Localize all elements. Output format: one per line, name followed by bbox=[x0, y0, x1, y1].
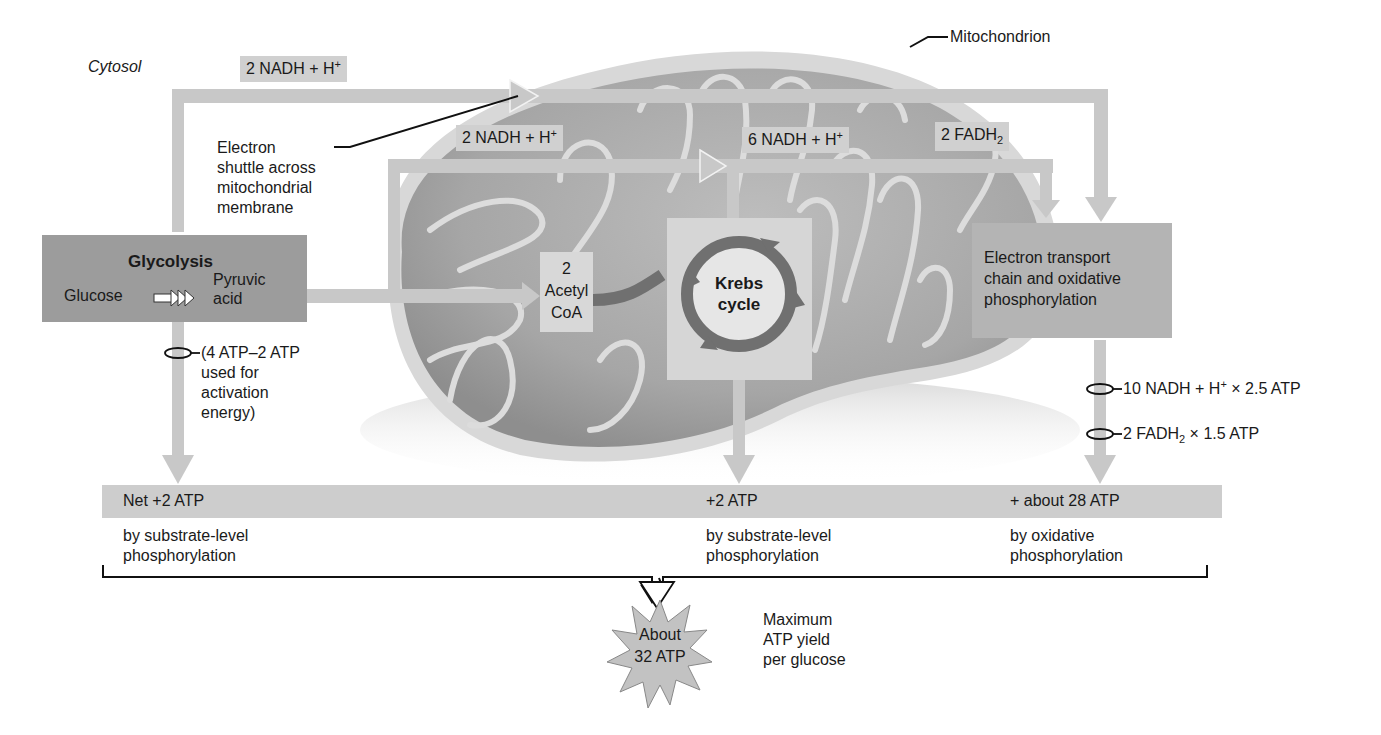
carrier-sub: 2 bbox=[997, 134, 1003, 146]
activation-energy-note: (4 ATP–2 ATP used for activation energy) bbox=[201, 343, 300, 423]
total-line: About bbox=[630, 624, 690, 646]
krebs-atp-amount: +2 ATP bbox=[706, 491, 758, 511]
max-yield-line: per glucose bbox=[763, 650, 846, 670]
acetyl-line: Acetyl bbox=[540, 280, 593, 302]
mitochondrion-label: Mitochondrion bbox=[950, 27, 1051, 47]
activation-line: activation bbox=[201, 383, 300, 403]
pyruvic-line: Pyruvic bbox=[213, 270, 265, 289]
method-line: phosphorylation bbox=[123, 546, 248, 566]
activation-line: (4 ATP–2 ATP bbox=[201, 343, 300, 363]
carrier-text: 2 NADH + H bbox=[462, 129, 550, 146]
method-line: phosphorylation bbox=[706, 546, 831, 566]
yield-text: × 1.5 ATP bbox=[1185, 425, 1259, 442]
etc-line: Electron transport bbox=[984, 247, 1121, 268]
yield-text: 10 NADH + H bbox=[1123, 380, 1220, 397]
bracket-arrow-icon bbox=[640, 582, 674, 608]
cellular-respiration-diagram: Cytosol Mitochondrion 2 NADH + H+ 2 NADH… bbox=[0, 0, 1381, 735]
acetyl-line: 2 bbox=[540, 258, 593, 280]
pyruvic-line: acid bbox=[213, 289, 265, 308]
summary-bracket bbox=[663, 565, 1207, 586]
yield-text: × 2.5 ATP bbox=[1227, 380, 1301, 397]
total-atp-label: About 32 ATP bbox=[630, 624, 690, 668]
max-yield-line: Maximum bbox=[763, 610, 846, 630]
electron-shuttle-label: Electron shuttle across mitochondrial me… bbox=[217, 138, 316, 218]
mitochondrion-leader-line bbox=[910, 37, 948, 47]
max-yield-note: Maximum ATP yield per glucose bbox=[763, 610, 846, 670]
carrier-sup: + bbox=[836, 129, 842, 141]
etc-atp-amount: + about 28 ATP bbox=[1010, 491, 1120, 511]
nadh-yield-label: 10 NADH + H+ × 2.5 ATP bbox=[1123, 379, 1301, 399]
glucose-label: Glucose bbox=[64, 286, 123, 306]
krebs-atp-method: by substrate-level phosphorylation bbox=[706, 526, 831, 566]
activation-line: used for bbox=[201, 363, 300, 383]
carrier-text: 2 FADH bbox=[941, 126, 997, 143]
glycolysis-atp-amount: Net +2 ATP bbox=[123, 491, 204, 511]
etc-line: phosphorylation bbox=[984, 289, 1121, 310]
total-line: 32 ATP bbox=[630, 646, 690, 668]
carrier-sup: + bbox=[550, 127, 556, 139]
carrier-sup: + bbox=[334, 58, 340, 70]
cytosol-nadh-tag: 2 NADH + H+ bbox=[240, 56, 347, 82]
acetyl-line: CoA bbox=[540, 302, 593, 324]
shuttle-line: shuttle across bbox=[217, 158, 316, 178]
etc-atp-method: by oxidative phosphorylation bbox=[1010, 526, 1123, 566]
krebs-fadh2-tag: 2 FADH2 bbox=[935, 122, 1009, 151]
krebs-line: Krebs bbox=[699, 273, 779, 294]
pyruvate-nadh-tag: 2 NADH + H+ bbox=[456, 125, 563, 151]
krebs-line: cycle bbox=[699, 294, 779, 315]
shuttle-line: membrane bbox=[217, 198, 316, 218]
carrier-text: 6 NADH + H bbox=[748, 131, 836, 148]
carrier-text: 2 NADH + H bbox=[246, 60, 334, 77]
glycolysis-box bbox=[42, 235, 307, 322]
glycolysis-title: Glycolysis bbox=[128, 252, 213, 272]
method-line: phosphorylation bbox=[1010, 546, 1123, 566]
method-line: by substrate-level bbox=[123, 526, 248, 546]
yield-text: 2 FADH bbox=[1123, 425, 1179, 442]
max-yield-line: ATP yield bbox=[763, 630, 846, 650]
acetyl-coa-label: 2 Acetyl CoA bbox=[540, 258, 593, 324]
shuttle-line: Electron bbox=[217, 138, 316, 158]
pyruvic-acid-label: Pyruvic acid bbox=[213, 270, 265, 308]
krebs-cycle-label: Krebs cycle bbox=[699, 273, 779, 315]
method-line: by substrate-level bbox=[706, 526, 831, 546]
fadh2-yield-label: 2 FADH2 × 1.5 ATP bbox=[1123, 424, 1259, 444]
glycolysis-atp-method: by substrate-level phosphorylation bbox=[123, 526, 248, 566]
etc-line: chain and oxidative bbox=[984, 268, 1121, 289]
activation-line: energy) bbox=[201, 403, 300, 423]
etc-label: Electron transport chain and oxidative p… bbox=[984, 247, 1121, 310]
cytosol-label: Cytosol bbox=[88, 57, 141, 77]
krebs-nadh-tag: 6 NADH + H+ bbox=[742, 127, 849, 153]
method-line: by oxidative bbox=[1010, 526, 1123, 546]
shuttle-line: mitochondrial bbox=[217, 178, 316, 198]
